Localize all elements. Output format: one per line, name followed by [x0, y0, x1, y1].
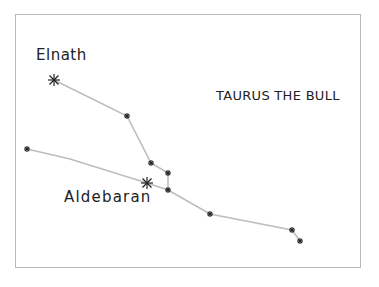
label-elnath: Elnath [36, 46, 87, 64]
star-large-icon [48, 74, 60, 86]
line-elnath-branch [54, 80, 168, 190]
label-aldebaran: Aldebaran [64, 188, 152, 206]
constellation-lines [27, 80, 300, 241]
star-small-icon [148, 160, 154, 166]
star-small-icon [165, 170, 171, 176]
star-small-icon [165, 187, 171, 193]
constellation-graphic [0, 0, 379, 287]
star-small-icon [289, 227, 295, 233]
star-small-icon [124, 113, 130, 119]
diagram-title: TAURUS THE BULL [216, 88, 340, 103]
star-small-icon [207, 211, 213, 217]
star-small-icon [297, 238, 303, 244]
star-small-icon [24, 146, 30, 152]
